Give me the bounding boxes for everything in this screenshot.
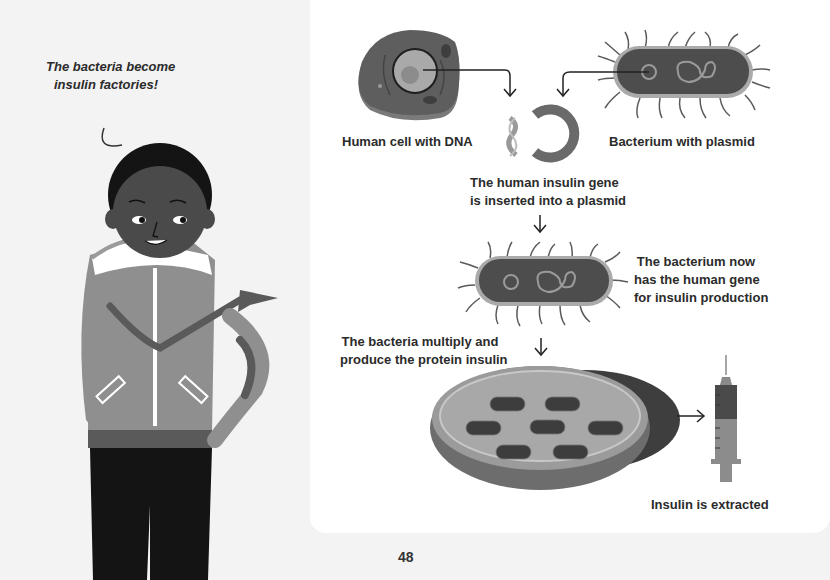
step3-line-2: produce the protein insulin bbox=[340, 351, 500, 369]
modified-bacterium-illustration bbox=[458, 242, 628, 326]
step2-line-2: has the human gene bbox=[634, 271, 758, 289]
syringe-illustration bbox=[711, 355, 741, 482]
human-cell-label: Human cell with DNA bbox=[342, 133, 473, 151]
step1-line-1: The human insulin gene bbox=[470, 174, 612, 192]
speech-bubble: The bacteria become insulin factories! bbox=[46, 58, 166, 94]
step1-label: The human insulin gene is inserted into … bbox=[470, 174, 612, 210]
speech-line-2: insulin factories! bbox=[46, 76, 166, 94]
step2-label: The bacterium now has the human gene for… bbox=[634, 253, 758, 307]
boy-character-illustration bbox=[81, 128, 278, 580]
step2-line-3: for insulin production bbox=[634, 289, 758, 307]
step3-label: The bacteria multiply and produce the pr… bbox=[340, 333, 500, 369]
result-label: Insulin is extracted bbox=[651, 496, 769, 514]
speech-line-1: The bacteria become bbox=[46, 58, 166, 76]
petri-dish-illustration bbox=[430, 366, 680, 490]
step1-line-2: is inserted into a plasmid bbox=[470, 192, 612, 210]
step2-line-1: The bacterium now bbox=[634, 253, 758, 271]
human-cell-illustration bbox=[358, 30, 459, 120]
right-arrow bbox=[677, 410, 704, 422]
down-arrow-1 bbox=[534, 215, 546, 232]
bacterium-illustration bbox=[598, 30, 770, 118]
plasmid-ring bbox=[535, 110, 574, 158]
step3-line-1: The bacteria multiply and bbox=[340, 333, 500, 351]
speech-tail bbox=[102, 128, 122, 146]
dna-fragment bbox=[509, 118, 517, 156]
bacterium-label: Bacterium with plasmid bbox=[609, 133, 755, 151]
page-number: 48 bbox=[398, 549, 414, 565]
down-arrow-2 bbox=[535, 338, 547, 355]
